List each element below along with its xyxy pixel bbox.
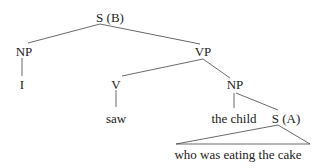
edge-vp-v bbox=[122, 59, 203, 76]
edge-np-sa bbox=[236, 93, 278, 110]
node-s-a: S (A) bbox=[272, 112, 301, 126]
edge-vp-np bbox=[203, 59, 230, 78]
leaf-saw: saw bbox=[106, 112, 126, 126]
leaf-relative-clause: who was eating the cake bbox=[174, 148, 301, 162]
node-v: V bbox=[111, 78, 120, 92]
triangle-relative-clause bbox=[176, 125, 310, 144]
node-np-object: NP bbox=[227, 78, 244, 92]
leaf-i: I bbox=[20, 78, 24, 92]
node-s-b: S (B) bbox=[96, 11, 124, 25]
node-vp: VP bbox=[195, 45, 212, 59]
edge-s-vp bbox=[100, 24, 200, 44]
leaf-the-child: the child bbox=[211, 112, 256, 126]
edge-s-np bbox=[28, 24, 100, 43]
syntax-tree-diagram: S (B) NP VP I V NP saw the child S (A) w… bbox=[0, 0, 328, 168]
tree-edges bbox=[0, 0, 328, 168]
node-np-subject: NP bbox=[16, 45, 33, 59]
